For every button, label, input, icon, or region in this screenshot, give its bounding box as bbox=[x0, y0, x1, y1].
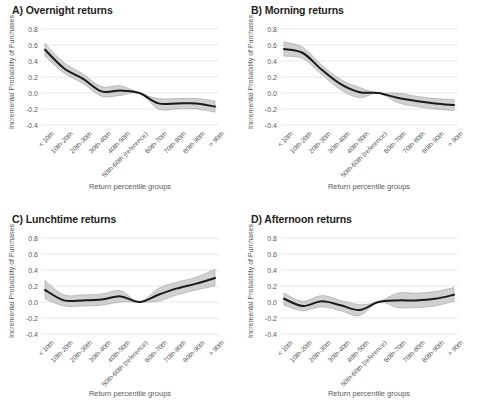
panel-a-plot: 0.80.60.40.20.0-0.2-0.4 bbox=[41, 25, 219, 129]
y-tick-label: 0.8 bbox=[267, 26, 277, 33]
panel-b-y-axis-label: Incremental Probability of Purchases bbox=[245, 25, 256, 129]
panel-c-plot: 0.80.60.40.20.0-0.2-0.4 bbox=[41, 234, 219, 338]
y-tick-label: 0.4 bbox=[28, 58, 38, 65]
panel-c-lunchtime-returns: C) Lunchtime returns Incremental Probabi… bbox=[0, 209, 239, 417]
panel-b-plot-area bbox=[280, 25, 458, 129]
panel-c-x-axis-label: Return percentile groups bbox=[41, 389, 219, 398]
y-tick-label: 0.6 bbox=[28, 42, 38, 49]
y-tick-label: 0.4 bbox=[267, 58, 277, 65]
panel-b-title: B) Morning returns bbox=[251, 4, 344, 16]
panel-c-plot-area bbox=[41, 234, 219, 338]
panel-d-afternoon-returns: D) Afternoon returns Incremental Probabi… bbox=[239, 209, 478, 417]
x-tick-label: > 90th bbox=[446, 339, 464, 357]
y-tick-label: 0.4 bbox=[267, 267, 277, 274]
panel-c-title: C) Lunchtime returns bbox=[12, 213, 116, 225]
panel-d-plot: 0.80.60.40.20.0-0.2-0.4 bbox=[280, 234, 458, 338]
panel-b-x-tick-labels: < 10th10th-20th20th-30th30th-40th40th-50… bbox=[280, 130, 458, 190]
x-tick-label: > 90th bbox=[207, 130, 225, 148]
panel-a-y-axis-label: Incremental Probability of Purchases bbox=[6, 25, 17, 129]
y-tick-label: -0.2 bbox=[265, 315, 277, 322]
panel-d-y-axis-label: Incremental Probability of Purchases bbox=[245, 234, 256, 338]
y-tick-label: 0.2 bbox=[28, 283, 38, 290]
panel-c-y-axis-label: Incremental Probability of Purchases bbox=[6, 234, 17, 338]
y-tick-label: 0.4 bbox=[28, 267, 38, 274]
y-tick-label: 0.6 bbox=[28, 251, 38, 258]
y-tick-label: 0.8 bbox=[267, 235, 277, 242]
y-tick-label: 0.6 bbox=[267, 42, 277, 49]
x-tick-label: > 90th bbox=[207, 339, 225, 357]
y-tick-label: 0.0 bbox=[267, 299, 277, 306]
y-tick-label: -0.4 bbox=[26, 331, 38, 338]
panel-a-title: A) Overnight returns bbox=[12, 4, 113, 16]
x-tick-label: > 90th bbox=[446, 130, 464, 148]
panel-d-x-axis-label: Return percentile groups bbox=[280, 389, 458, 398]
y-tick-label: -0.4 bbox=[26, 122, 38, 129]
y-tick-label: 0.0 bbox=[267, 90, 277, 97]
panel-a-x-tick-labels: < 10th10th-20th20th-30th30th-40th40th-50… bbox=[41, 130, 219, 190]
y-tick-label: 0.8 bbox=[28, 235, 38, 242]
figure-panel-grid: A) Overnight returns Incremental Probabi… bbox=[0, 0, 478, 417]
y-tick-label: -0.4 bbox=[265, 122, 277, 129]
y-tick-label: 0.2 bbox=[267, 283, 277, 290]
panel-b-morning-returns: B) Morning returns Incremental Probabili… bbox=[239, 0, 478, 209]
y-tick-label: 0.2 bbox=[267, 74, 277, 81]
y-tick-label: -0.2 bbox=[265, 106, 277, 113]
panel-a-plot-area bbox=[41, 25, 219, 129]
panel-b-x-axis-label: Return percentile groups bbox=[280, 182, 458, 191]
y-tick-label: 0.0 bbox=[28, 90, 38, 97]
panel-a-overnight-returns: A) Overnight returns Incremental Probabi… bbox=[0, 0, 239, 209]
y-tick-label: 0.0 bbox=[28, 299, 38, 306]
y-tick-label: 0.8 bbox=[28, 26, 38, 33]
panel-a-x-axis-label: Return percentile groups bbox=[41, 182, 219, 191]
panel-d-title: D) Afternoon returns bbox=[251, 213, 352, 225]
y-tick-label: -0.2 bbox=[26, 106, 38, 113]
y-tick-label: 0.6 bbox=[267, 251, 277, 258]
panel-b-plot: 0.80.60.40.20.0-0.2-0.4 bbox=[280, 25, 458, 129]
y-tick-label: 0.2 bbox=[28, 74, 38, 81]
panel-d-plot-area bbox=[280, 234, 458, 338]
y-tick-label: -0.2 bbox=[26, 315, 38, 322]
y-tick-label: -0.4 bbox=[265, 331, 277, 338]
